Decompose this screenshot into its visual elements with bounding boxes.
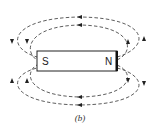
arrow-down-icon	[25, 39, 29, 44]
arrow-left-icon	[77, 23, 82, 27]
north-pole-label: N	[105, 56, 112, 67]
magnetic-field-diagram: S N (b)	[0, 0, 156, 130]
field-line-outer-bottom	[18, 68, 139, 105]
bar-magnet: S N	[37, 51, 118, 71]
arrow-up-icon	[142, 36, 146, 41]
arrow-down-icon	[10, 39, 14, 44]
north-pole-edge	[116, 51, 119, 71]
arrow-up-icon	[25, 78, 29, 83]
arrow-left-icon	[77, 15, 82, 19]
figure-caption: (b)	[75, 113, 86, 123]
arrow-left-icon	[77, 95, 82, 99]
arrow-up-icon	[10, 78, 14, 83]
arrow-down-icon	[142, 81, 146, 86]
south-pole-label: S	[42, 56, 49, 67]
arrow-left-icon	[77, 103, 82, 107]
